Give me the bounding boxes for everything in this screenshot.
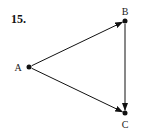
node-label-a: A bbox=[14, 62, 21, 73]
node-c bbox=[123, 111, 128, 116]
edge-a-c bbox=[32, 68, 123, 111]
node-label-b: B bbox=[122, 6, 129, 17]
node-b bbox=[123, 19, 128, 24]
edge-a-b bbox=[32, 22, 123, 65]
diagram: 15. A B C bbox=[0, 0, 141, 131]
node-a bbox=[27, 65, 32, 70]
node-label-c: C bbox=[122, 119, 129, 130]
